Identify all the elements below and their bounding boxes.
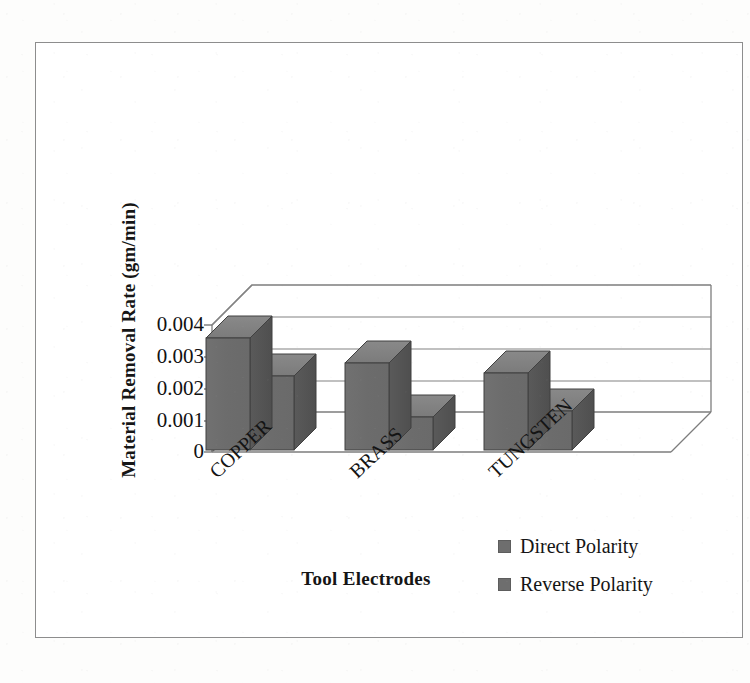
- y-tick-label-0002: 0.002: [118, 378, 204, 399]
- y-tick-label-0001: 0.001: [118, 410, 204, 431]
- y-tick-label-0: 0: [118, 441, 204, 462]
- legend-swatch-icon-reverse: [498, 578, 511, 591]
- chart-legend: Direct Polarity Reverse Polarity: [498, 527, 728, 603]
- legend-item-reverse-polarity[interactable]: Reverse Polarity: [498, 565, 728, 603]
- x-axis-title: Tool Electrodes: [236, 568, 496, 590]
- legend-item-direct-polarity[interactable]: Direct Polarity: [498, 527, 728, 565]
- plot-area: Material Removal Rate (gm/min) 0.004 0.0…: [36, 43, 744, 639]
- legend-swatch-icon-direct: [498, 540, 511, 553]
- legend-label-reverse: Reverse Polarity: [520, 573, 653, 596]
- legend-label-direct: Direct Polarity: [520, 535, 638, 558]
- y-tick-label-0003: 0.003: [118, 346, 204, 367]
- y-tick-label-0004: 0.004: [118, 314, 204, 335]
- y-axis-tick-labels: 0.004 0.003 0.002 0.001 0: [118, 43, 204, 639]
- chart-frame: Material Removal Rate (gm/min) 0.004 0.0…: [35, 42, 743, 638]
